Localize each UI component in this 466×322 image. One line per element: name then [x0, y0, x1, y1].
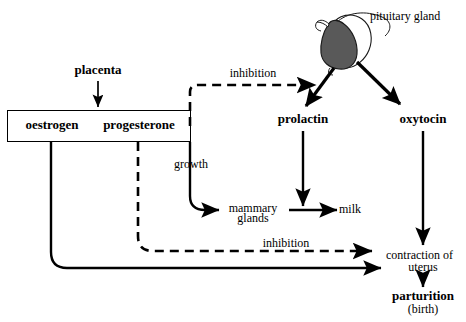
- node-contraction-line2: uterus: [408, 261, 437, 274]
- node-oestrogen: oestrogen: [25, 118, 78, 132]
- node-placenta: placenta: [75, 63, 122, 77]
- edge-label-inhibition-top: inhibition: [230, 67, 277, 80]
- edge-pituitary-to-prolactin: [306, 68, 334, 106]
- node-milk: milk: [339, 203, 361, 216]
- node-mammary-glands-line2: glands: [237, 212, 268, 225]
- node-pituitary-gland: pituitary gland: [370, 10, 440, 23]
- node-prolactin: prolactin: [278, 112, 328, 126]
- node-oxytocin: oxytocin: [400, 112, 447, 126]
- diagram-canvas: [0, 0, 466, 322]
- node-parturition: parturition: [392, 289, 454, 303]
- node-progesterone: progesterone: [103, 118, 175, 132]
- edge-growth-to-mammary-glands: [190, 142, 219, 210]
- edge-label-inhibition-bottom: inhibition: [263, 237, 310, 250]
- edge-pituitary-to-oxytocin: [357, 62, 400, 104]
- edge-oestrogen-to-contraction: [51, 142, 381, 268]
- hormone-pathway-diagram: placenta oestrogen progesterone pituitar…: [0, 0, 466, 322]
- node-birth: (birth): [408, 303, 439, 316]
- edge-label-growth: growth: [174, 158, 208, 171]
